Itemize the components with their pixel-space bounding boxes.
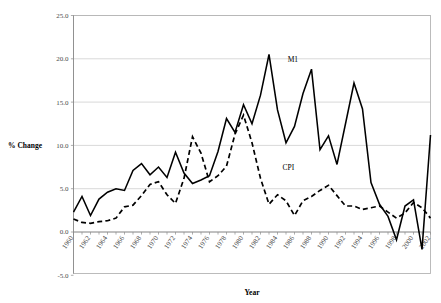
x-tick-label: 1998 [384, 234, 399, 250]
data-series [74, 54, 431, 249]
y-tick-label: 20.0 [56, 55, 69, 63]
x-tick-label: 1974 [180, 234, 195, 250]
x-tick-label: 1972 [163, 234, 178, 250]
x-tick-label: 1990 [316, 234, 331, 250]
x-tick-label: 1980 [231, 234, 246, 250]
series-label-m1: M1 [288, 55, 299, 64]
series-label-cpi: CPI [283, 163, 295, 172]
y-axis-title: % Change [8, 141, 43, 150]
x-tick-label: 2000 [401, 234, 416, 250]
x-tick-label: 1994 [350, 234, 365, 250]
x-tick-label: 1976 [197, 234, 212, 250]
y-tick-label: 25.0 [56, 12, 69, 20]
y-tick-label: -5.0 [57, 272, 69, 280]
x-tick-label: 1968 [129, 234, 144, 250]
x-tick-label: 1982 [248, 234, 263, 250]
y-tick-label: 5.0 [60, 185, 69, 193]
series-line-cpi [74, 115, 431, 223]
x-axis-tick-labels: 1960196219641966196819701972197419761978… [61, 234, 433, 250]
x-axis-title: Year [245, 288, 261, 297]
x-tick-label: 1996 [367, 234, 382, 250]
x-tick-label: 1966 [112, 234, 127, 250]
x-tick-label: 1964 [95, 234, 110, 250]
y-tick-label: 10.0 [56, 142, 69, 150]
x-tick-label: 1988 [299, 234, 314, 250]
x-tick-label: 1978 [214, 234, 229, 250]
x-tick-label: 1984 [265, 234, 280, 250]
chart-container: 25.020.015.010.05.00.0-5.0 1960196219641… [0, 0, 441, 303]
x-tick-label: 1962 [78, 234, 93, 250]
series-line-m1 [74, 54, 431, 249]
x-tick-label: 1986 [282, 234, 297, 250]
x-tick-label: 1970 [146, 234, 161, 250]
line-chart: 25.020.015.010.05.00.0-5.0 1960196219641… [0, 0, 441, 303]
y-tick-label: 15.0 [56, 99, 69, 107]
x-tick-label: 1992 [333, 234, 348, 250]
